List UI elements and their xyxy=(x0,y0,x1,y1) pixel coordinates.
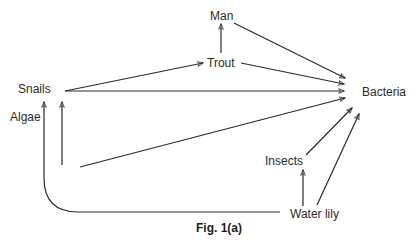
node-trout: Trout xyxy=(207,56,235,70)
edge-man-to-bacteria xyxy=(234,23,345,78)
edge-snails-to-trout xyxy=(65,63,203,91)
node-bacteria: Bacteria xyxy=(362,85,406,99)
edge-algae-to-bacteria xyxy=(80,98,345,167)
edges-layer xyxy=(0,0,417,241)
figure-caption: Fig. 1(a) xyxy=(196,221,242,235)
edge-trout-to-bacteria xyxy=(241,63,344,84)
food-web-diagram: Man Trout Snails Algae Bacteria Insects … xyxy=(0,0,417,241)
node-algae: Algae xyxy=(10,110,41,124)
node-water-lily: Water lily xyxy=(290,207,339,221)
edge-insects-to-bacteria xyxy=(306,108,352,155)
node-snails: Snails xyxy=(18,82,51,96)
node-insects: Insects xyxy=(265,154,303,168)
edge-water-lily-to-snails xyxy=(44,102,280,212)
node-man: Man xyxy=(210,9,233,23)
edge-water-lily-to-bacteria xyxy=(317,114,359,205)
